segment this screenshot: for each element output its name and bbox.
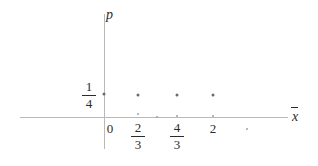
- data-point: [212, 94, 215, 97]
- fraction-denominator: 4: [82, 97, 96, 111]
- fraction-denominator: 3: [170, 138, 184, 152]
- x-tick-label-two-thirds: 2 3: [131, 121, 145, 151]
- y-tick-label-one-quarter: 1 4: [82, 80, 96, 110]
- x-tick-label-2: 2: [210, 122, 217, 135]
- x-axis-tick: [137, 113, 139, 115]
- x-axis-tick: [246, 128, 248, 130]
- x-tick-label-four-thirds: 4 3: [170, 121, 184, 151]
- data-point: [176, 94, 179, 97]
- x-axis-tick: [212, 115, 214, 117]
- x-axis-label-base: x: [292, 109, 298, 124]
- x-axis-tick: [156, 116, 158, 118]
- fraction-numerator: 4: [170, 121, 184, 135]
- x-axis-line: [20, 117, 288, 118]
- overbar-stroke: [291, 107, 298, 108]
- fraction-numerator: 2: [131, 121, 145, 135]
- x-axis-tick: [176, 115, 178, 117]
- x-bar-glyph: x: [292, 110, 298, 124]
- y-axis-line: [104, 14, 105, 149]
- probability-mass-function-chart: p x 1 4 0 2 3 4 3 2: [0, 0, 318, 166]
- x-axis-label: x: [292, 110, 298, 124]
- y-axis-label: p: [106, 8, 113, 22]
- data-point: [103, 93, 106, 96]
- x-tick-label-0: 0: [107, 122, 114, 135]
- fraction-numerator: 1: [82, 80, 96, 94]
- data-point: [137, 94, 140, 97]
- fraction-denominator: 3: [131, 138, 145, 152]
